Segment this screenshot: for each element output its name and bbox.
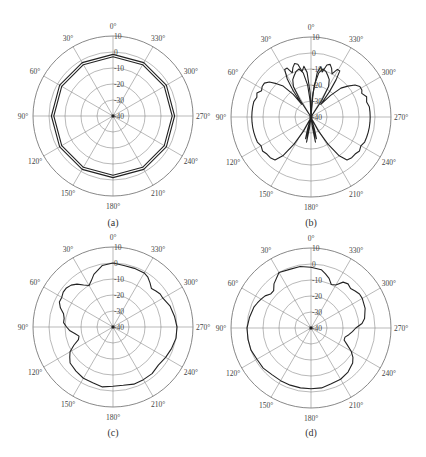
angle-label-c-10: 300°	[184, 278, 198, 287]
radial-label-c-1: 0	[114, 259, 118, 268]
angle-label-b-6: 180°	[304, 203, 318, 212]
angle-label-b-2: 60°	[228, 68, 239, 77]
angle-label-d-2: 60°	[228, 279, 239, 288]
angle-label-c-0: 0°	[110, 233, 117, 242]
angle-label-d-11: 330°	[349, 246, 363, 255]
radial-label-d-4: -30	[312, 308, 322, 317]
angle-label-a-2: 60°	[30, 67, 41, 76]
angle-label-a-3: 90°	[18, 112, 29, 121]
radial-label-c-3: -20	[114, 291, 124, 300]
angle-label-d-3: 90°	[216, 324, 227, 333]
center-marker-b	[310, 116, 313, 119]
radial-label-a-2: -10	[114, 64, 124, 73]
center-marker-a	[112, 115, 115, 118]
angle-label-c-5: 150°	[61, 400, 75, 409]
angle-label-b-3: 90°	[216, 113, 227, 122]
angle-label-b-9: 270°	[394, 113, 408, 122]
angle-label-d-8: 240°	[382, 369, 396, 378]
angle-label-d-10: 300°	[382, 279, 396, 288]
angle-label-a-5: 150°	[61, 189, 75, 198]
angle-label-a-6: 180°	[106, 202, 120, 211]
angle-label-a-8: 240°	[184, 157, 198, 166]
angle-label-b-0: 0°	[308, 23, 315, 32]
angle-label-c-2: 60°	[30, 278, 41, 287]
angle-label-a-11: 330°	[151, 34, 165, 43]
angle-label-a-1: 30°	[63, 34, 74, 43]
center-marker-d	[310, 327, 313, 330]
caption-b: (b)	[305, 217, 317, 229]
radial-label-c-4: -30	[114, 307, 124, 316]
angle-label-b-11: 330°	[349, 35, 363, 44]
angle-label-d-7: 210°	[349, 401, 363, 410]
angle-label-c-4: 120°	[28, 368, 42, 377]
caption-d: (d)	[305, 427, 317, 439]
angle-label-d-5: 150°	[259, 401, 273, 410]
angle-label-c-7: 210°	[151, 400, 165, 409]
angle-label-c-9: 270°	[196, 323, 210, 332]
angle-label-a-4: 120°	[28, 157, 42, 166]
angle-label-c-11: 330°	[151, 245, 165, 254]
angle-label-d-0: 0°	[308, 234, 315, 243]
polar-panel-b: 0°30°60°90°120°150°180°210°240°270°300°3…	[216, 23, 408, 212]
radial-label-a-4: -30	[114, 96, 124, 105]
radial-label-d-2: -10	[312, 276, 322, 285]
radial-label-a-1: 0	[114, 48, 118, 57]
spoke-d-8	[311, 328, 380, 368]
center-marker-c	[112, 326, 115, 329]
radial-label-d-1: 0	[312, 260, 316, 269]
polar-panel-d: 0°30°60°90°120°150°180°210°240°270°300°3…	[216, 234, 408, 423]
radial-label-a-3: -20	[114, 80, 124, 89]
polar-figure: 0°30°60°90°120°150°180°210°240°270°300°3…	[0, 0, 426, 457]
radial-label-d-3: -20	[312, 292, 322, 301]
angle-label-a-9: 270°	[196, 112, 210, 121]
spoke-a-4	[44, 116, 113, 156]
angle-label-c-3: 90°	[18, 323, 29, 332]
spoke-d-4	[242, 328, 311, 368]
trace-d-1	[247, 267, 365, 389]
polar-panel-c: 0°30°60°90°120°150°180°210°240°270°300°3…	[18, 233, 210, 422]
radial-label-b-5: -40	[312, 113, 322, 122]
radial-label-b-4: -30	[312, 97, 322, 106]
caption-a: (a)	[107, 217, 118, 229]
angle-label-c-8: 240°	[184, 368, 198, 377]
radial-label-a-0: 10	[114, 32, 122, 41]
radial-label-b-2: -10	[312, 65, 322, 74]
caption-c: (c)	[107, 427, 118, 439]
spoke-a-2	[44, 76, 113, 116]
spoke-d-2	[242, 288, 311, 328]
spoke-b-1	[271, 48, 311, 117]
radial-label-c-2: -10	[114, 275, 124, 284]
radial-label-b-3: -20	[312, 81, 322, 90]
angle-label-d-9: 270°	[394, 324, 408, 333]
radial-label-b-0: 10	[312, 33, 320, 42]
radial-label-b-1: 0	[312, 49, 316, 58]
angle-label-a-0: 0°	[110, 22, 117, 31]
radial-label-a-5: -40	[114, 112, 124, 121]
angle-label-a-7: 210°	[151, 189, 165, 198]
spoke-d-5	[271, 328, 311, 397]
spoke-a-7	[113, 116, 153, 185]
spoke-c-2	[44, 287, 113, 327]
angle-label-c-6: 180°	[106, 413, 120, 422]
angle-label-b-7: 210°	[349, 190, 363, 199]
angle-label-b-8: 240°	[382, 158, 396, 167]
angle-label-d-4: 120°	[226, 369, 240, 378]
radial-label-c-5: -40	[114, 323, 124, 332]
angle-label-b-5: 150°	[259, 190, 273, 199]
spoke-a-1	[73, 47, 113, 116]
angle-label-c-1: 30°	[63, 245, 74, 254]
polar-panel-a: 0°30°60°90°120°150°180°210°240°270°300°3…	[18, 22, 210, 211]
angle-label-b-4: 120°	[226, 158, 240, 167]
spoke-c-4	[44, 327, 113, 367]
spoke-a-5	[73, 116, 113, 185]
angle-label-a-10: 300°	[184, 67, 198, 76]
angle-label-b-1: 30°	[261, 35, 272, 44]
radial-label-d-0: 10	[312, 244, 320, 253]
angle-label-b-10: 300°	[382, 68, 396, 77]
radial-label-c-0: 10	[114, 243, 122, 252]
spoke-a-8	[113, 116, 182, 156]
angle-label-d-1: 30°	[261, 246, 272, 255]
angle-label-d-6: 180°	[304, 414, 318, 423]
radial-label-d-5: -40	[312, 324, 322, 333]
spoke-c-1	[73, 258, 113, 327]
